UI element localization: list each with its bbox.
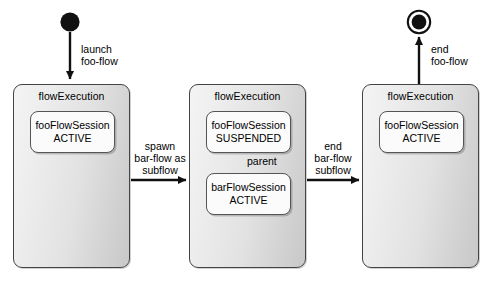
transition-end-subflow-label: end bar-flow subflow [301,141,365,176]
label-line: foo-flow [81,56,118,68]
session-state: ACTIVE [54,132,92,145]
session-box-foo-suspended: fooFlowSession SUSPENDED [206,111,291,153]
session-box-foo-active-2: fooFlowSession ACTIVE [379,111,464,153]
relation-parent-label: parent [247,155,277,167]
label-line: subflow [125,165,195,177]
transition-spawn-label: spawn bar-flow as subflow [125,141,195,176]
flow-execution-3-title: flowExecution [363,90,478,102]
label-line: foo-flow [431,56,468,68]
label-line: bar-flow [301,153,365,165]
diagram-canvas: flowExecution fooFlowSession ACTIVE flow… [0,0,490,284]
flow-execution-2-title: flowExecution [190,90,305,102]
label-line: spawn [125,141,195,153]
label-line: launch [81,44,118,56]
session-name: fooFlowSession [211,119,285,132]
session-name: barFlowSession [211,181,286,194]
label-line: bar-flow as [125,153,195,165]
flow-execution-1-title: flowExecution [14,90,129,102]
session-state: SUSPENDED [216,132,281,145]
flow-execution-1: flowExecution fooFlowSession ACTIVE [13,84,130,268]
label-line: subflow [301,165,365,177]
flow-execution-3: flowExecution fooFlowSession ACTIVE [362,84,479,268]
flow-execution-2: flowExecution fooFlowSession SUSPENDED b… [189,84,306,268]
session-state: ACTIVE [403,132,441,145]
session-state: ACTIVE [230,194,268,207]
session-name: fooFlowSession [384,119,458,132]
label-line: end [301,141,365,153]
transition-end-flow-label: end foo-flow [431,44,468,68]
session-box-bar-active: barFlowSession ACTIVE [206,173,291,215]
label-line: end [431,44,468,56]
session-box-foo-active-1: fooFlowSession ACTIVE [30,111,115,153]
start-node [60,12,79,31]
session-name: fooFlowSession [35,119,109,132]
end-node [408,11,430,33]
transition-launch-label: launch foo-flow [81,44,118,68]
